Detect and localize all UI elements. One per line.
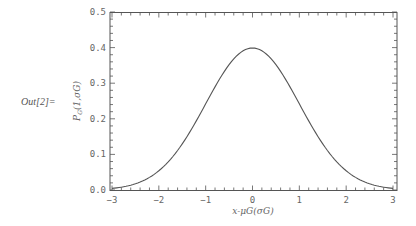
x-tick-label: −1	[200, 195, 211, 205]
y-tick-label: 0.1	[90, 149, 106, 159]
plot-frame	[110, 13, 397, 191]
y-tick-label: 0.2	[90, 114, 106, 124]
axis-ticks	[110, 12, 397, 191]
gaussian-curve	[112, 48, 393, 188]
y-axis-title: PG(1,σG)	[72, 81, 83, 122]
y-tick-label: 0.5	[90, 7, 106, 17]
y-tick-label: 0.4	[90, 43, 106, 53]
y-tick-label: 0.3	[90, 78, 106, 88]
y-tick-labels: 0.00.10.20.30.40.5	[90, 7, 106, 195]
x-tick-label: 0	[250, 195, 255, 205]
x-tick-label: −3	[107, 195, 118, 205]
x-tick-label: 2	[343, 195, 348, 205]
x-tick-label: 1	[297, 195, 302, 205]
x-tick-label: −2	[153, 195, 164, 205]
x-axis-title: x-μG(σG)	[232, 206, 274, 216]
gaussian-plot: 0.00.10.20.30.40.5 −3−2−10123 x-μG(σG) P…	[0, 0, 416, 226]
x-tick-labels: −3−2−10123	[107, 195, 396, 205]
x-tick-label: 3	[390, 195, 395, 205]
y-tick-label: 0.0	[90, 185, 106, 195]
